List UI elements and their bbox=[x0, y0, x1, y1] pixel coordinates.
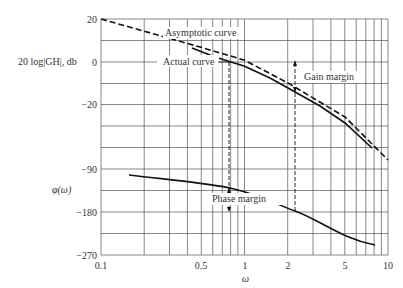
x-tick-1: 1 bbox=[243, 260, 248, 271]
phase-axis-label: φ(ω) bbox=[52, 184, 72, 196]
y-tick-m20: −20 bbox=[81, 99, 97, 110]
phase-curve bbox=[129, 175, 375, 245]
bode-plot: Asymptotic curve Actual curve Gain margi… bbox=[0, 0, 403, 288]
x-tick-0.1: 0.1 bbox=[95, 260, 108, 271]
phase-margin-label: Phase margin bbox=[212, 193, 266, 204]
magnitude-axis-label: 20 log|GH|, db bbox=[18, 56, 77, 67]
x-axis-label: ω bbox=[242, 273, 249, 284]
asymptotic-curve-label: Asymptotic curve bbox=[165, 27, 237, 38]
x-tick-2: 2 bbox=[286, 260, 291, 271]
grid bbox=[101, 19, 388, 255]
y-tick-m90: −90 bbox=[81, 164, 97, 175]
y-tick-0: 0 bbox=[92, 57, 97, 68]
actual-curve-label: Actual curve bbox=[163, 56, 215, 67]
x-tick-5: 5 bbox=[343, 260, 348, 271]
x-tick-0.5: 0.5 bbox=[195, 260, 208, 271]
y-tick-m180: −180 bbox=[76, 207, 97, 218]
gain-margin-arrow-icon bbox=[293, 60, 297, 66]
x-tick-10: 10 bbox=[383, 260, 393, 271]
y-tick-20: 20 bbox=[87, 14, 97, 25]
gain-margin-label: Gain margin bbox=[304, 71, 354, 82]
